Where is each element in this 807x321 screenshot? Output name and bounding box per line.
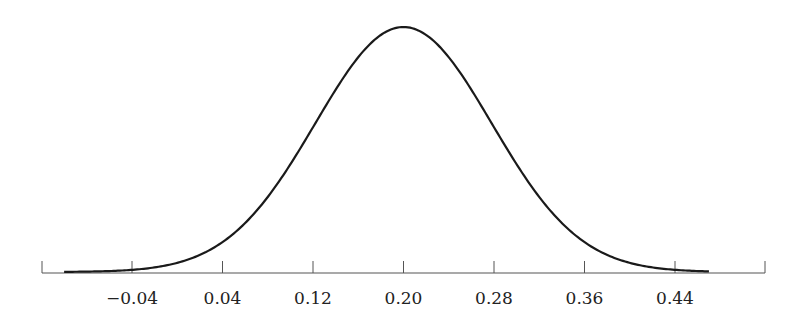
normal-curve-chart: −0.040.040.120.200.280.360.44 [0, 0, 807, 321]
x-tick-label: 0.20 [385, 288, 423, 308]
x-tick-label: 0.36 [566, 288, 604, 308]
x-tick-label: 0.04 [204, 288, 242, 308]
density-curve [64, 27, 709, 272]
x-tick-label: 0.44 [656, 288, 694, 308]
x-axis-ticks: −0.040.040.120.200.280.360.44 [106, 261, 694, 308]
x-tick-label: 0.12 [294, 288, 332, 308]
x-tick-label: 0.28 [475, 288, 513, 308]
x-tick-label: −0.04 [106, 288, 158, 308]
